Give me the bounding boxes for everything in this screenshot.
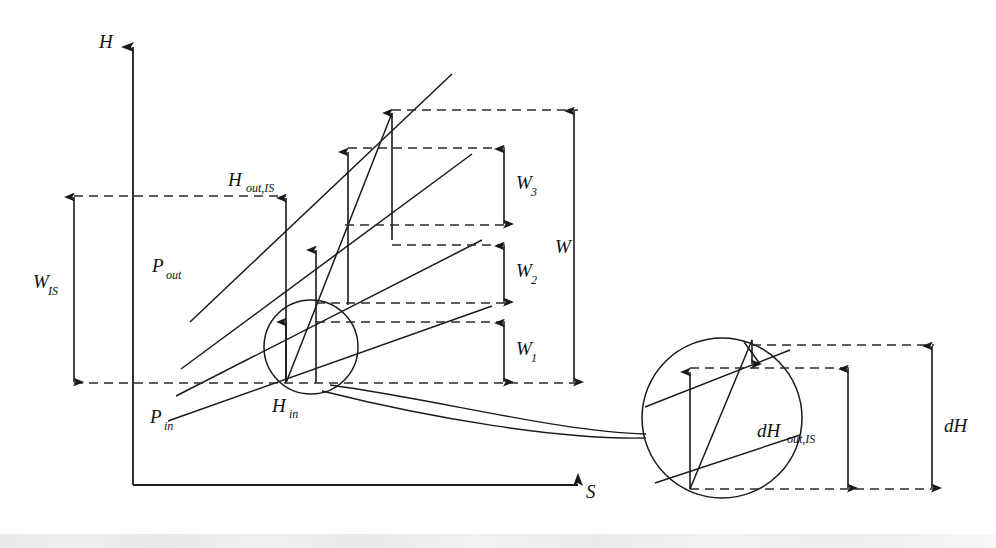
p-out-label: P (151, 255, 164, 276)
bottom-scan-band (0, 534, 996, 548)
h-out-is-label: H (227, 169, 243, 190)
dh-out-is-label: dH (757, 420, 782, 441)
h-out-is-sublabel: out,IS (246, 181, 274, 195)
w-total-label: W (555, 236, 573, 257)
magnified-inset-circle (642, 338, 802, 498)
p-out-sublabel: out (166, 268, 182, 282)
isobar-intermediate-lower (176, 240, 482, 396)
w1-sublabel: 1 (531, 351, 537, 365)
hs-diagram-canvas: H S H out,IS H in P out P in W IS W 3 W … (0, 0, 996, 548)
p-in-label: P (149, 406, 162, 427)
inset-connector-upper (330, 385, 646, 434)
dh-out-is-sublabel: out,IS (787, 432, 815, 446)
w2-sublabel: 2 (531, 273, 537, 287)
magnified-inset-group (642, 338, 802, 498)
isobar-lines-group (168, 74, 492, 421)
detail-circle-small (264, 300, 358, 394)
dh-label: dH (944, 415, 969, 436)
process-path-group (286, 113, 392, 383)
w3-sublabel: 3 (530, 185, 537, 199)
actual-process-line (286, 113, 392, 383)
inset-brackets-group (848, 346, 932, 488)
hs-diagram-figure: H S H out,IS H in P out P in W IS W 3 W … (0, 0, 996, 548)
h-in-sublabel: in (289, 407, 298, 421)
inset-connector-group (322, 385, 646, 438)
isobar-intermediate-upper (181, 154, 472, 369)
detail-circle-group (264, 300, 358, 394)
labels-group: H S H out,IS H in P out P in W IS W 3 W … (33, 31, 969, 502)
axes-group (133, 47, 578, 485)
inset-level-lines-group (690, 345, 934, 489)
level-lines-group (74, 110, 578, 383)
w-is-sublabel: IS (47, 284, 58, 298)
inset-isobar-upper (645, 350, 790, 407)
enthalpy-axis-label: H (98, 31, 114, 52)
entropy-axis-label: S (586, 481, 596, 502)
h-in-label: H (271, 395, 287, 416)
inset-process-line (690, 340, 752, 489)
p-in-sublabel: in (164, 419, 173, 433)
